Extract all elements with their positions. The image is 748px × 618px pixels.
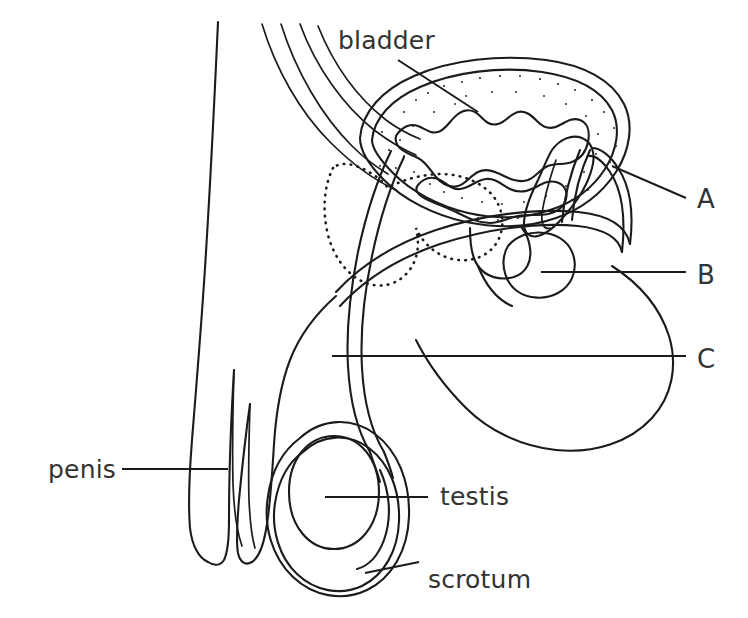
figure-background [0, 0, 748, 618]
label-penis: penis [48, 455, 116, 484]
anatomy-figure-svg: bladder penis testis scrotum A B C [0, 0, 748, 618]
label-bladder: bladder [338, 26, 435, 55]
label-a: A [697, 184, 715, 214]
anatomy-diagram: bladder penis testis scrotum A B C [0, 0, 748, 618]
label-c: C [697, 344, 715, 374]
label-b: B [697, 260, 715, 290]
label-testis: testis [440, 482, 509, 511]
label-scrotum: scrotum [428, 565, 531, 594]
